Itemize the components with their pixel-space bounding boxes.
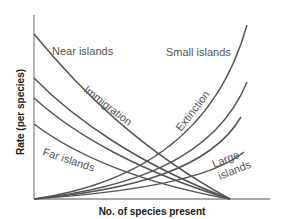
x-axis-title: No. of species present xyxy=(99,206,206,217)
label-near-islands: Near islands xyxy=(52,45,114,57)
label-far-islands: Far islands xyxy=(41,145,96,173)
label-immigration: Immigration xyxy=(82,83,135,128)
label-small-islands: Small islands xyxy=(166,46,231,58)
y-axis-title: Rate (per species) xyxy=(15,69,26,155)
label-extinction: Extinction xyxy=(173,88,212,133)
island-biogeography-chart: Near islands Small islands Immigration E… xyxy=(0,0,281,219)
